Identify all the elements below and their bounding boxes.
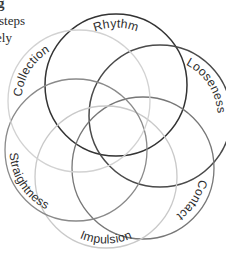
- circle-label-looseness: Looseness: [184, 55, 226, 114]
- circle-label-contact: Contact: [174, 178, 210, 224]
- circle-impulsion: [35, 106, 177, 248]
- circle-rhythm: [45, 14, 187, 156]
- circle-label-rhythm: Rhythm: [91, 16, 140, 34]
- circle-label-text-rhythm: Rhythm: [91, 16, 140, 34]
- circle-label-text-contact: Contact: [174, 178, 210, 224]
- circle-label-text-looseness: Looseness: [184, 55, 226, 114]
- circle-contact: [72, 97, 214, 239]
- circle-label-impulsion: Impulsion: [78, 228, 133, 247]
- training-scale-circles-diagram: RhythmLoosenessContactImpulsionStraightn…: [0, 0, 226, 257]
- circle-label-text-impulsion: Impulsion: [78, 228, 133, 247]
- circle-straightness: [5, 79, 147, 221]
- circle-collection: [8, 30, 150, 172]
- diagram-page: g steps ely RhythmLoosenessContactImpuls…: [0, 0, 226, 257]
- circle-label-layer: RhythmLoosenessContactImpulsionStraightn…: [6, 16, 226, 246]
